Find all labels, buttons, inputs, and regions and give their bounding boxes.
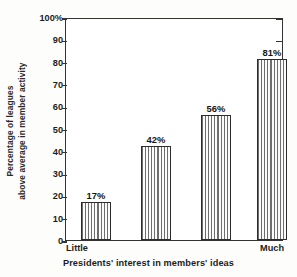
y-axis-tick-left [62, 63, 67, 64]
bar: 17% [81, 202, 111, 240]
y-axis-tick-left [62, 219, 67, 220]
bar: 81% [257, 59, 287, 240]
y-axis-tick-right [276, 18, 282, 19]
bar: 42% [141, 146, 171, 240]
y-axis-tick-left [62, 197, 67, 198]
y-axis-tick-left [62, 175, 67, 176]
bar-value-label: 42% [147, 134, 166, 145]
y-axis-tick-left [62, 152, 67, 153]
y-axis-tick-left [62, 41, 67, 42]
x-axis-endpoint-right: Much [260, 243, 284, 253]
y-axis-tick-label: 20 [24, 191, 63, 201]
y-axis-tick-left [62, 85, 67, 86]
bar-chart: Percentage of leagues above average in m… [0, 0, 297, 277]
y-axis-tick-label: 90 [24, 35, 63, 45]
bar-value-label: 81% [263, 47, 282, 58]
y-axis-tick-label: 70 [24, 80, 63, 90]
y-axis-tick-label: 30 [24, 169, 63, 179]
x-axis-title: Presidents' interest in members' ideas [0, 258, 297, 268]
bar: 56% [201, 115, 231, 240]
y-axis-tick-label: 40 [24, 147, 63, 157]
y-axis-tick-label: 100% [24, 13, 63, 23]
bar-value-label: 56% [206, 103, 225, 114]
y-axis-tick-label: 80 [24, 58, 63, 68]
y-axis-tick-label: 10 [24, 214, 63, 224]
y-axis-tick-left [62, 108, 67, 109]
y-axis-tick-labels: 0102030405060708090100% [24, 0, 63, 277]
y-axis-tick-left [62, 18, 67, 19]
y-axis-tick-left [62, 130, 67, 131]
y-axis-tick-right [276, 41, 282, 42]
bar-value-label: 17% [87, 190, 106, 201]
y-axis-tick-label: 0 [24, 236, 63, 246]
plot-area: 17%42%56%81% [65, 18, 283, 241]
y-axis-tick-label: 50 [24, 125, 63, 135]
y-axis-tick-label: 60 [24, 102, 63, 112]
y-axis-title-line-1: Percentage of leagues [5, 25, 17, 237]
x-axis-endpoint-left: Little [66, 243, 88, 253]
